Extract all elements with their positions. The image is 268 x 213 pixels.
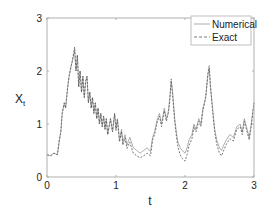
legend-label-numerical: Numerical bbox=[212, 19, 257, 30]
legend-label-exact: Exact bbox=[212, 32, 237, 43]
y-tick-label: 1 bbox=[36, 119, 42, 130]
y-tick-label: 0 bbox=[36, 172, 42, 183]
y-tick-label: 3 bbox=[36, 13, 42, 24]
x-axis-label: t bbox=[148, 194, 152, 208]
x-tick-label: 0 bbox=[44, 180, 50, 191]
y-axis-label: Xt bbox=[15, 92, 26, 108]
legend: Numerical Exact bbox=[191, 16, 257, 45]
y-tick-label: 2 bbox=[36, 66, 42, 77]
x-tick-label: 1 bbox=[113, 180, 119, 191]
series-line-exact bbox=[47, 47, 254, 161]
plot-lines bbox=[47, 47, 254, 161]
series-line-numerical bbox=[47, 50, 254, 156]
y-axis-label-main: X bbox=[15, 92, 23, 106]
x-tick-label: 3 bbox=[251, 180, 257, 191]
y-axis-label-subscript: t bbox=[23, 99, 26, 108]
x-tick-label: 2 bbox=[182, 180, 188, 191]
line-chart: 01230123 t Xt Numerical Exact bbox=[0, 0, 268, 213]
